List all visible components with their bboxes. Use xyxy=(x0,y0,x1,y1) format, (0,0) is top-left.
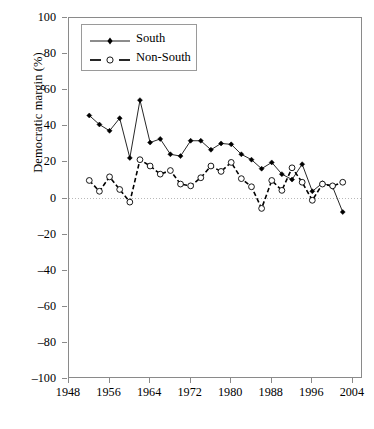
x-tick-label: 1956 xyxy=(96,386,120,398)
data-point xyxy=(168,152,173,157)
plot-area xyxy=(68,17,362,378)
x-tick-label: 1972 xyxy=(177,386,201,398)
legend-entry-south: South xyxy=(88,29,190,48)
data-point xyxy=(167,168,173,174)
data-point xyxy=(198,175,204,181)
legend: South Non-South xyxy=(81,24,197,71)
data-point xyxy=(188,138,193,143)
x-tick-label: 1980 xyxy=(218,386,242,398)
data-point xyxy=(86,178,92,184)
legend-key-non-south-icon xyxy=(88,52,132,64)
series-non-south xyxy=(86,157,345,212)
data-point xyxy=(238,176,244,182)
data-point xyxy=(299,179,305,185)
data-point xyxy=(289,165,295,171)
data-point xyxy=(97,188,103,194)
data-point xyxy=(157,171,163,177)
data-point xyxy=(279,187,285,193)
data-point xyxy=(320,181,326,187)
series-layer xyxy=(69,18,363,379)
data-point xyxy=(249,184,255,190)
data-point xyxy=(340,179,346,185)
data-point xyxy=(309,197,315,203)
x-tick-label: 2004 xyxy=(340,386,364,398)
data-point xyxy=(137,98,142,103)
data-point xyxy=(158,136,163,141)
data-point xyxy=(147,163,153,169)
data-point xyxy=(208,163,214,169)
data-point xyxy=(330,183,336,189)
legend-label-south: South xyxy=(136,32,165,45)
legend-entry-non-south: Non-South xyxy=(88,48,190,67)
data-point xyxy=(259,206,265,212)
data-point xyxy=(107,174,113,180)
data-point xyxy=(300,162,305,167)
data-point xyxy=(148,140,153,145)
data-point xyxy=(290,177,295,182)
legend-key-south-icon xyxy=(88,33,132,45)
data-point xyxy=(228,160,234,166)
data-point xyxy=(117,187,123,193)
data-point xyxy=(137,157,143,163)
data-point xyxy=(218,169,224,175)
data-point xyxy=(340,210,345,215)
x-tick-label: 1996 xyxy=(299,386,323,398)
data-point xyxy=(178,181,184,187)
data-point xyxy=(127,199,133,205)
x-tick-label: 1988 xyxy=(259,386,283,398)
data-point xyxy=(269,178,275,184)
x-tick-label: 1948 xyxy=(56,386,80,398)
x-tick-label: 1964 xyxy=(137,386,161,398)
data-point xyxy=(188,183,194,189)
data-point xyxy=(127,155,132,160)
legend-label-non-south: Non-South xyxy=(136,51,191,64)
data-point xyxy=(178,154,183,159)
chart-container: Democratic margin (%) 100806040200–20–40… xyxy=(0,0,374,429)
data-point xyxy=(219,141,224,146)
series-line xyxy=(89,100,342,212)
